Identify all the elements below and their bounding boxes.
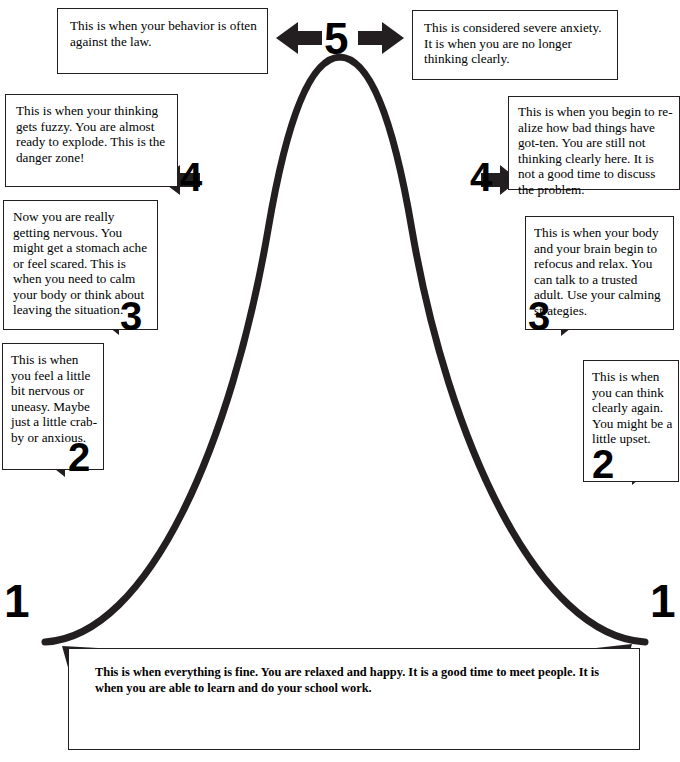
- description-text-level4-right: This is when you begin to re-alize how b…: [518, 104, 673, 197]
- level-numeral-1-left: 1: [4, 578, 29, 624]
- level-numeral-3-left: 3: [120, 296, 141, 336]
- description-text-level2-right: This is when you can think clearly again…: [592, 369, 674, 447]
- description-box-level4-right: This is when you begin to re-alize how b…: [508, 96, 680, 190]
- description-box-level5-right: This is considered severe anxiety. It is…: [412, 10, 618, 80]
- description-text-level2-left: This is when you feel a little bit nervo…: [11, 352, 98, 445]
- description-text-level1-bottom: This is when everything is fine. You are…: [95, 664, 627, 697]
- description-text-level5-right: This is considered severe anxiety. It is…: [424, 20, 609, 67]
- level-numeral-2-left: 2: [68, 437, 89, 477]
- level-numeral-2-right: 2: [592, 444, 613, 484]
- level-numeral-5: 5: [324, 17, 347, 61]
- level-numeral-3-right: 3: [528, 296, 549, 336]
- description-text-level3-right: This is when your body and your brain be…: [534, 225, 668, 318]
- arrow-right-icon-apex: [358, 22, 404, 54]
- description-box-level1-bottom: This is when everything is fine. You are…: [68, 648, 640, 750]
- description-box-level5-left: This is when your behavior is often agai…: [57, 8, 268, 74]
- description-text-level5-left: This is when your behavior is often agai…: [70, 18, 257, 49]
- level-numeral-1-right: 1: [650, 578, 675, 624]
- level-numeral-4-right: 4: [470, 157, 491, 197]
- arrow-left-icon-apex: [276, 22, 322, 54]
- description-box-level4-left: This is when your thinking gets fuzzy. Y…: [5, 94, 178, 187]
- anxiety-curve-diagram: 5 4 4 3 3 2 2 1 1 This is when your beha…: [0, 0, 680, 762]
- level-numeral-4-left: 4: [180, 157, 201, 197]
- description-text-level4-left: This is when your thinking gets fuzzy. Y…: [16, 103, 169, 165]
